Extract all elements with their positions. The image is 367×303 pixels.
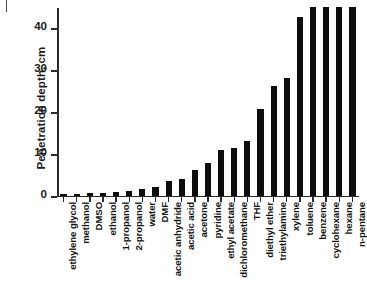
y-axis-tick-label: 0 — [41, 188, 47, 200]
x-axis-tick-label: 1-propanol — [120, 202, 131, 251]
bar — [323, 7, 329, 196]
bar — [139, 189, 145, 195]
x-axis-tick-label: dichloromethane — [238, 202, 249, 278]
x-axis-tick-label: THF — [251, 202, 262, 220]
bar — [126, 191, 132, 196]
bar — [310, 7, 316, 196]
x-axis-tick — [63, 197, 64, 202]
y-axis-tick: 40 — [51, 28, 57, 29]
x-axis-tick-label: diethyl ether — [264, 202, 275, 258]
bar — [244, 141, 250, 195]
y-axis-tick: 10 — [51, 154, 57, 155]
x-axis-tick-label: benzene — [317, 202, 328, 240]
bar — [349, 7, 355, 196]
y-axis-tick-label: 10 — [34, 146, 47, 158]
bar — [100, 193, 106, 196]
figure-canvas: Penetration depth, cm 010203040 ethylene… — [0, 0, 367, 303]
y-axis-tick: 20 — [51, 112, 57, 113]
bar — [284, 78, 290, 196]
x-axis-tick-label: n-pentane — [356, 202, 367, 247]
bar — [74, 194, 80, 196]
bar — [152, 187, 158, 195]
y-axis-tick: 0 — [51, 196, 57, 197]
x-axis-tick-label: toluene — [304, 202, 315, 235]
bar — [166, 181, 172, 195]
x-axis-tick-label: ethanol — [107, 202, 118, 235]
y-axis-tick: 30 — [51, 70, 57, 71]
bar — [87, 193, 93, 195]
bar — [271, 86, 277, 196]
bar — [205, 163, 211, 196]
x-axis-tick-label: acetone — [198, 202, 209, 238]
bar — [257, 109, 263, 196]
x-axis-tick-label: 2-propanol — [133, 202, 144, 251]
bar — [113, 192, 119, 196]
x-axis-tick-label: hexane — [343, 202, 354, 234]
bar — [297, 17, 303, 196]
plot-area: 010203040 — [57, 8, 359, 197]
x-axis-tick-label: pyridine — [212, 202, 223, 239]
bar — [60, 194, 66, 195]
y-axis-tick-label: 30 — [34, 62, 47, 74]
y-axis-line — [57, 8, 59, 197]
bar — [231, 148, 237, 196]
x-axis-tick-label: acetic anhydride — [172, 202, 183, 276]
x-axis-tick-label: ethyl acetate — [225, 202, 236, 259]
x-axis-tick-label: DMF — [159, 202, 170, 222]
x-axis-tick-label: ethylene glycol — [67, 202, 78, 270]
x-axis-tick-label: xylene — [290, 202, 301, 231]
bar — [336, 7, 342, 196]
bar — [179, 179, 185, 196]
x-axis-tick-label: methanol — [80, 202, 91, 244]
y-axis-tick-label: 40 — [34, 20, 47, 32]
x-axis-tick-label: water — [146, 202, 157, 227]
x-axis-tick-label: cyclohexane — [330, 202, 341, 259]
x-axis-tick-label: acetic acid — [185, 202, 196, 250]
crop-mark — [6, 0, 7, 12]
x-axis-tick-label: triethylamine — [277, 202, 288, 260]
bar — [192, 170, 198, 195]
bar — [218, 150, 224, 195]
y-axis-tick-label: 20 — [34, 104, 47, 116]
x-axis-tick-label: DMSO — [93, 202, 104, 230]
